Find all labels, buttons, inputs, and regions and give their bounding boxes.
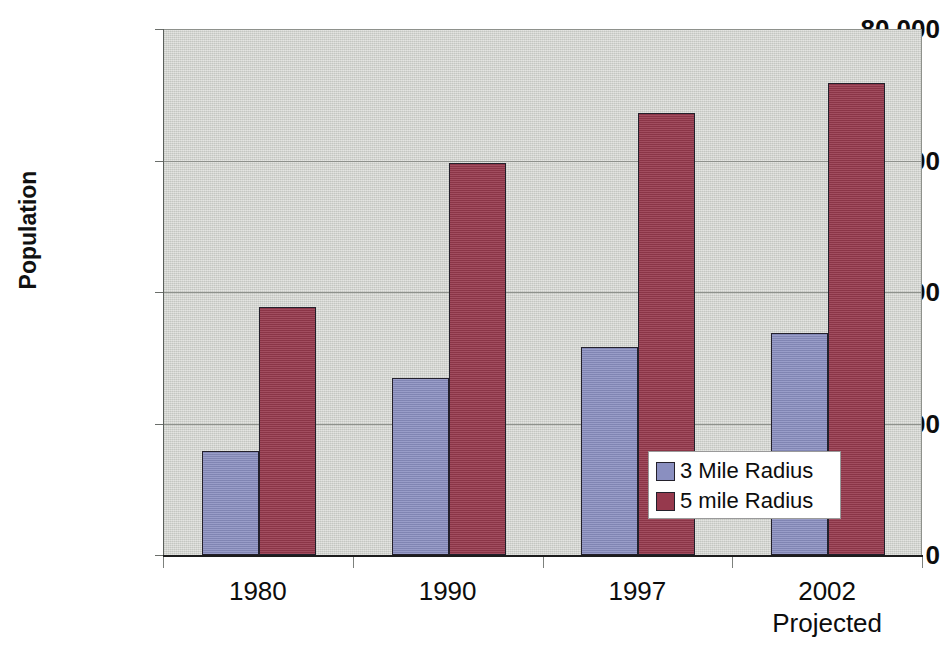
x-axis-tick-label-line: 1997: [608, 576, 666, 606]
bar: [581, 347, 638, 555]
x-axis-tick-mark: [732, 557, 733, 568]
x-axis-tick-mark: [922, 557, 923, 568]
x-axis-tick-mark: [353, 557, 354, 568]
bar: [449, 163, 506, 555]
legend: 3 Mile Radius 5 mile Radius: [648, 451, 841, 519]
y-axis-tick-mark: [155, 555, 163, 556]
x-axis-tick-label-line: Projected: [732, 607, 922, 639]
plot-border-top: [163, 29, 922, 30]
x-axis-tick-label: 1980: [163, 575, 353, 607]
legend-label: 5 mile Radius: [680, 490, 813, 512]
legend-swatch-5-mile-radius: [656, 492, 675, 511]
plot-area: 3 Mile Radius 5 mile Radius: [163, 29, 922, 555]
bar-chart: Population 020,00040,00060,00080,000 3 M…: [0, 0, 940, 671]
bar: [259, 307, 316, 555]
legend-label: 3 Mile Radius: [680, 460, 813, 482]
y-axis-tick-mark: [155, 292, 163, 293]
y-axis-tick-mark: [155, 29, 163, 30]
x-axis-tick-label: 1990: [353, 575, 543, 607]
x-axis-tick-label: 2002Projected: [732, 575, 922, 639]
x-axis-tick-label: 1997: [543, 575, 733, 607]
y-axis-tick-mark: [155, 424, 163, 425]
x-axis-tick-label-line: 1980: [229, 576, 287, 606]
gridline: [163, 161, 922, 162]
y-axis-line: [163, 29, 164, 556]
bar: [202, 451, 259, 555]
bar: [392, 378, 449, 555]
plot-border-right: [921, 29, 922, 555]
x-axis-tick-mark: [543, 557, 544, 568]
y-axis-tick-mark: [155, 161, 163, 162]
x-axis-tick-mark: [163, 557, 164, 568]
legend-item: 3 Mile Radius: [656, 456, 835, 486]
y-axis-title: Population: [13, 150, 43, 310]
x-axis-tick-label-line: 2002: [798, 576, 856, 606]
legend-item: 5 mile Radius: [656, 486, 835, 516]
gridline: [163, 292, 922, 293]
legend-swatch-3-mile-radius: [656, 462, 675, 481]
x-axis-tick-label-line: 1990: [419, 576, 477, 606]
bar: [771, 333, 828, 555]
